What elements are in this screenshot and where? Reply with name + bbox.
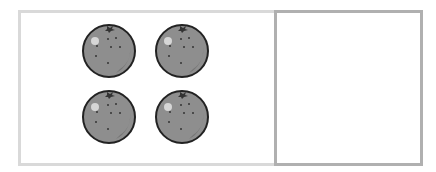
- orange-icon: [80, 87, 138, 145]
- right-box-empty: [274, 10, 423, 166]
- left-box: [18, 10, 275, 166]
- orange-icon: [153, 87, 211, 145]
- orange-icon: [153, 21, 211, 79]
- orange-icon: [80, 21, 138, 79]
